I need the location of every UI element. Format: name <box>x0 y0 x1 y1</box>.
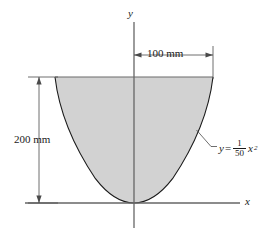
x-axis-label: x <box>245 196 250 207</box>
y-axis-label: y <box>128 8 133 19</box>
parabola-area-figure: y x 100 mm 200 mm y = 1 50 x 2 <box>0 0 264 243</box>
diagram-canvas <box>0 0 264 243</box>
dim-height-arrow-bottom <box>36 196 41 204</box>
equation-fraction: 1 50 <box>233 139 246 159</box>
dim-width-arrow-left <box>134 52 142 57</box>
dimension-label-width: 100 mm <box>147 48 183 59</box>
equation-leader-line <box>197 130 212 147</box>
equation-lhs: y <box>219 143 224 154</box>
equation-exponent: 2 <box>254 145 258 152</box>
equation-denominator: 50 <box>233 148 246 158</box>
dim-width-arrow-right <box>206 52 214 57</box>
equation-numerator: 1 <box>235 139 244 148</box>
dimension-label-height: 200 mm <box>14 134 50 145</box>
curve-equation-label: y = 1 50 x 2 <box>219 139 258 159</box>
dim-height-arrow-top <box>36 77 41 85</box>
equation-equals: = <box>225 143 231 154</box>
equation-variable: x <box>248 143 253 154</box>
